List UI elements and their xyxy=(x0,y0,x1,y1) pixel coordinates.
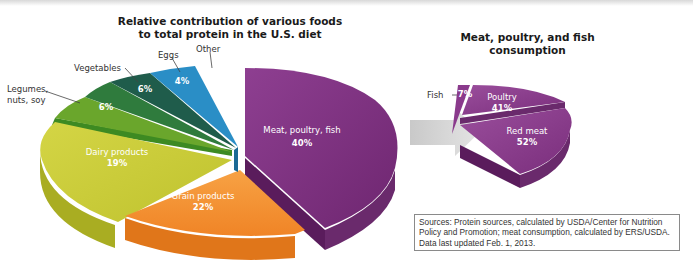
dairy-percent: 19% xyxy=(107,158,128,168)
grain-percent: 22% xyxy=(193,202,214,212)
poultry-percent: 41% xyxy=(492,103,513,113)
vegetables-percent: 6% xyxy=(138,84,153,94)
fish-percent: 7% xyxy=(458,89,473,99)
legumes-label-line-2: nuts, soy xyxy=(7,95,46,105)
red-meat-label: Red meat xyxy=(507,126,549,136)
eggs-percent: 4% xyxy=(175,76,190,86)
fish-label: Fish xyxy=(427,90,443,100)
sources-note: Sources: Protein sources, calculated by … xyxy=(414,214,680,251)
meat-percent: 40% xyxy=(292,138,313,148)
main-pie xyxy=(40,66,398,260)
poultry-label: Poultry xyxy=(487,92,517,102)
legumes-label-line-1: Legumes, xyxy=(7,84,48,94)
other-label: Other xyxy=(196,44,221,54)
legumes-percent: 6% xyxy=(99,102,114,112)
dairy-label: Dairy products xyxy=(86,147,149,157)
eggs-label: Eggs xyxy=(158,50,179,60)
meat-label: Meat, poultry, fish xyxy=(263,125,340,135)
red-meat-percent: 52% xyxy=(517,137,538,147)
grain-label: Grain products xyxy=(172,191,235,201)
other-percent: 3% xyxy=(206,74,221,84)
vegetables-label: Vegetables xyxy=(74,63,122,73)
